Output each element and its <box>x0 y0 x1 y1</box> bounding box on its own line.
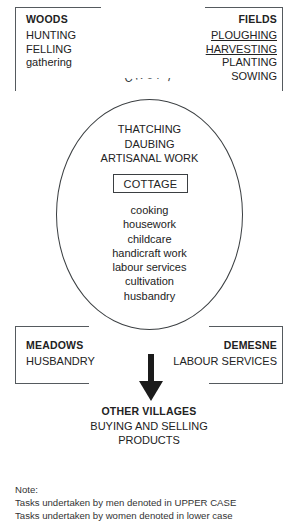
note-line-men: Tasks undertaken by men denoted in UPPER… <box>15 496 285 509</box>
fields-heading: FIELDS <box>149 12 277 26</box>
note-block: Note: Tasks undertaken by men denoted in… <box>15 483 285 523</box>
croft-diagram: WOODS HUNTING FELLING gathering FIELDS P… <box>0 0 298 526</box>
fields-item-ploughing-label: PLOUGHING <box>211 29 277 41</box>
meadows-heading: MEADOWS <box>26 338 95 352</box>
cottage-box: COTTAGE <box>113 174 188 193</box>
fields-item-planting: PLANTING <box>149 56 277 70</box>
other-villages-group: OTHER VILLAGES BUYING AND SELLING PRODUC… <box>0 404 298 447</box>
croft-task-thatching: THATCHING <box>56 122 243 137</box>
croft-task-cultivation: cultivation <box>56 274 243 288</box>
demesne-group: DEMESNE LABOUR SERVICES <box>155 338 277 369</box>
note-line-women: Tasks undertaken by women denoted in low… <box>15 509 285 522</box>
demesne-item-labour-services: LABOUR SERVICES <box>155 355 277 369</box>
other-villages-line-1: BUYING AND SELLING <box>0 419 298 433</box>
croft-task-labour-services: labour services <box>56 260 243 274</box>
cottage-label: COTTAGE <box>124 178 178 190</box>
other-villages-heading: OTHER VILLAGES <box>0 404 298 419</box>
meadows-group: MEADOWS HUSBANDRY <box>26 338 95 369</box>
demesne-heading: DEMESNE <box>155 338 277 352</box>
croft-task-housework: housework <box>56 217 243 231</box>
fields-item-harvesting-label: HARVESTING <box>206 43 277 55</box>
croft-task-husbandry: husbandry <box>56 289 243 303</box>
woods-item-hunting: HUNTING <box>26 29 76 43</box>
croft-task-daubing: DAUBING <box>56 137 243 152</box>
fields-group: FIELDS PLOUGHING HARVESTING PLANTING SOW… <box>149 12 277 83</box>
meadows-item-husbandry: HUSBANDRY <box>26 355 95 369</box>
woods-item-gathering: gathering <box>26 56 76 70</box>
croft-arc-label: CROFT <box>92 78 208 104</box>
other-villages-line-2: PRODUCTS <box>0 433 298 447</box>
croft-task-artisanal-work: ARTISANAL WORK <box>56 151 243 166</box>
croft-upper-tasks: THATCHING DAUBING ARTISANAL WORK <box>56 122 243 166</box>
croft-task-childcare: childcare <box>56 232 243 246</box>
woods-group: WOODS HUNTING FELLING gathering <box>26 12 76 70</box>
note-label: Note: <box>15 483 285 496</box>
croft-task-handicraft-work: handicraft work <box>56 246 243 260</box>
fields-item-ploughing: PLOUGHING <box>149 29 277 43</box>
fields-item-harvesting: HARVESTING <box>149 43 277 57</box>
woods-heading: WOODS <box>26 12 76 26</box>
croft-lower-tasks: cooking housework childcare handicraft w… <box>56 203 243 303</box>
down-arrow-icon <box>138 354 164 402</box>
croft-arc-text: CROFT <box>123 78 177 85</box>
croft-task-cooking: cooking <box>56 203 243 217</box>
woods-item-felling: FELLING <box>26 43 76 57</box>
